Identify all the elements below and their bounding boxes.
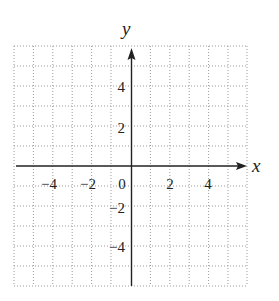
y-tick-label: −2 <box>109 200 125 216</box>
x-axis-label: x <box>251 155 261 176</box>
axes <box>16 56 240 286</box>
y-axis-label: y <box>120 18 131 39</box>
x-tick-label: −4 <box>41 176 57 192</box>
y-tick-label: −4 <box>109 239 125 255</box>
x-tick-label: 4 <box>204 176 212 192</box>
x-tick-labels: −4 −2 0 2 4 <box>41 176 212 192</box>
x-tick-label: 2 <box>166 176 174 192</box>
x-tick-label: −2 <box>80 176 96 192</box>
y-tick-label: 4 <box>118 79 126 95</box>
x-tick-label: 0 <box>118 176 126 192</box>
y-tick-label: 2 <box>118 120 126 136</box>
coordinate-plane: x y −4 −2 0 2 4 4 2 −2 −4 <box>0 0 279 301</box>
y-tick-labels: 4 2 −2 −4 <box>109 79 125 255</box>
